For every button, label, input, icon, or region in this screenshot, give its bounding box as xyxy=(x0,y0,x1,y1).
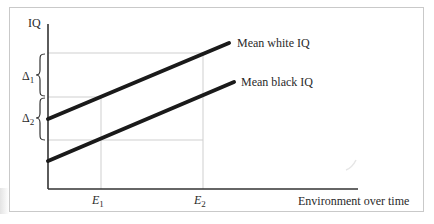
tick-e1: E1 xyxy=(92,194,104,209)
series-line-white xyxy=(48,43,229,119)
scribble-mark xyxy=(346,160,356,170)
tick-e2-sub: 2 xyxy=(201,199,206,209)
delta1-subscript: 1 xyxy=(30,75,35,85)
legend-black-label: Mean black IQ xyxy=(241,76,313,88)
delta2-subscript: 2 xyxy=(30,117,35,127)
brace-delta2-icon xyxy=(36,98,45,140)
x-axis-label: Environment over time xyxy=(298,195,409,207)
y-axis-label: IQ xyxy=(28,17,41,29)
delta1-symbol: Δ xyxy=(22,69,30,83)
series-line-black xyxy=(48,82,234,161)
guide-lines xyxy=(48,53,203,189)
delta2-label: Δ2 xyxy=(22,112,34,127)
legend-white-label: Mean white IQ xyxy=(237,37,310,49)
delta2-symbol: Δ xyxy=(22,111,30,125)
tick-e2: E2 xyxy=(194,194,206,209)
tick-e1-sub: 1 xyxy=(99,199,104,209)
iq-diagram xyxy=(0,0,434,224)
delta1-label: Δ1 xyxy=(22,70,34,85)
brace-delta1-icon xyxy=(36,54,45,96)
